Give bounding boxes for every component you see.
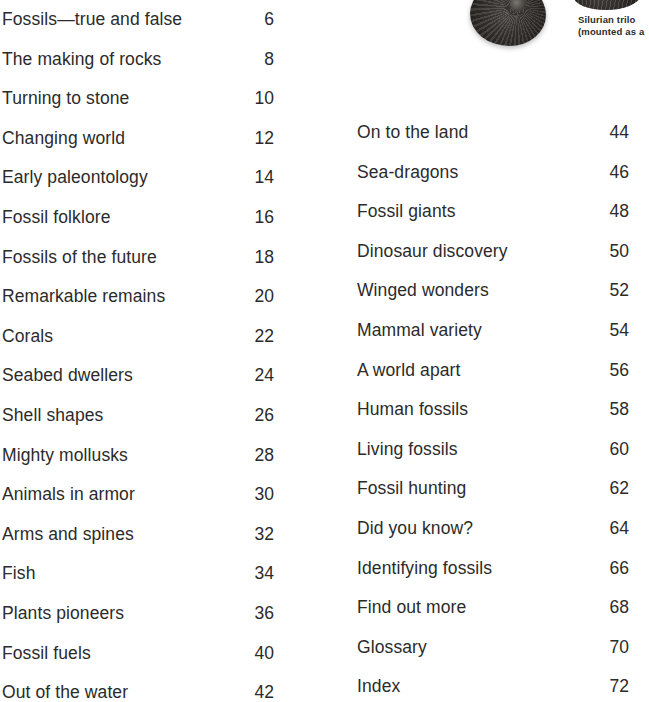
toc-entry-title: Did you know? [357,509,473,549]
toc-entry-title: Turning to stone [2,79,129,119]
toc-entry-page-number: 36 [243,594,274,634]
toc-entry-title: Fossil hunting [357,469,466,509]
toc-entry-title: Out of the water [2,673,128,702]
toc-entry[interactable]: Fossil hunting 62 [357,469,629,509]
toc-entry-title: Fossil fuels [2,634,91,674]
toc-entry-title: Winged wonders [357,271,489,311]
toc-entry-page-number: 58 [598,390,629,430]
toc-entry[interactable]: Index 72 [357,667,629,702]
toc-entry[interactable]: A world apart 56 [357,351,629,391]
toc-entry-title: Fossils of the future [2,238,157,278]
toc-entry-page-number: 14 [243,158,274,198]
toc-entry-page-number: 66 [598,549,629,589]
caption-line-1: Silurian trilo [578,14,649,26]
toc-entry[interactable]: Fossils—true and false 6 [2,0,274,40]
toc-entry[interactable]: Fossil fuels 40 [2,634,274,674]
toc-entry[interactable]: Did you know? 64 [357,509,629,549]
trilobite-fossil-photo [574,0,640,10]
toc-entry-title: Human fossils [357,390,468,430]
toc-entry-page-number: 50 [598,232,629,272]
toc-entry[interactable]: Identifying fossils 66 [357,549,629,589]
toc-entry-title: Fossil giants [357,192,456,232]
toc-entry-title: Dinosaur discovery [357,232,508,272]
toc-entry[interactable]: Mighty mollusks 28 [2,436,274,476]
toc-entry[interactable]: The making of rocks 8 [2,40,274,80]
toc-entry-page-number: 28 [243,436,274,476]
toc-entry[interactable]: Arms and spines 32 [2,515,274,555]
toc-entry-page-number: 34 [243,554,274,594]
toc-entry-page-number: 12 [243,119,274,159]
toc-entry-title: Identifying fossils [357,549,492,589]
toc-entry-page-number: 68 [598,588,629,628]
toc-entry-title: Arms and spines [2,515,134,555]
toc-entry[interactable]: Dinosaur discovery 50 [357,232,629,272]
toc-entry[interactable]: Seabed dwellers 24 [2,356,274,396]
toc-entry-page-number: 8 [252,40,274,80]
toc-entry[interactable]: Animals in armor 30 [2,475,274,515]
toc-entry[interactable]: Glossary 70 [357,628,629,668]
toc-entry[interactable]: Fossil giants 48 [357,192,629,232]
toc-entry[interactable]: Corals 22 [2,317,274,357]
toc-entry[interactable]: Out of the water 42 [2,673,274,702]
toc-entry-page-number: 26 [243,396,274,436]
toc-entry-title: Glossary [357,628,427,668]
toc-entry[interactable]: Turning to stone 10 [2,79,274,119]
toc-entry-title: Plants pioneers [2,594,124,634]
toc-entry[interactable]: Living fossils 60 [357,430,629,470]
toc-entry-page-number: 22 [243,317,274,357]
toc-entry-page-number: 46 [598,153,629,193]
ammonite-fossil-photo [470,0,546,46]
toc-entry[interactable]: Early paleontology 14 [2,158,274,198]
toc-entry-page-number: 42 [243,673,274,702]
toc-entry-title: Seabed dwellers [2,356,133,396]
toc-entry-title: Index [357,667,400,702]
toc-entry[interactable]: Shell shapes 26 [2,396,274,436]
toc-entry-title: Living fossils [357,430,458,470]
toc-entry-title: Sea-dragons [357,153,458,193]
toc-entry[interactable]: Fish 34 [2,554,274,594]
toc-entry-page-number: 18 [243,238,274,278]
toc-entry-title: Fossil folklore [2,198,110,238]
toc-entry[interactable]: Changing world 12 [2,119,274,159]
toc-entry-title: Remarkable remains [2,277,165,317]
toc-entry-page-number: 64 [598,509,629,549]
toc-entry[interactable]: Mammal variety 54 [357,311,629,351]
toc-entry-page-number: 52 [598,271,629,311]
toc-entry-title: Changing world [2,119,125,159]
toc-entry-page-number: 20 [243,277,274,317]
toc-entry[interactable]: Remarkable remains 20 [2,277,274,317]
toc-entry[interactable]: Fossils of the future 18 [2,238,274,278]
toc-entry-title: Fish [2,554,35,594]
toc-entry-page-number: 54 [598,311,629,351]
toc-entry-page-number: 56 [598,351,629,391]
toc-entry-title: The making of rocks [2,40,161,80]
toc-entry-page-number: 40 [243,634,274,674]
toc-entry-title: Find out more [357,588,466,628]
toc-entry-page-number: 62 [598,469,629,509]
fossil-photo-caption: Silurian trilo (mounted as a [578,14,649,39]
toc-entry-page-number: 44 [598,113,629,153]
toc-entry-page-number: 30 [243,475,274,515]
toc-entry-page-number: 6 [252,0,274,40]
toc-entry-title: Shell shapes [2,396,103,436]
toc-entry-title: A world apart [357,351,460,391]
toc-entry-page-number: 60 [598,430,629,470]
toc-entry-page-number: 32 [243,515,274,555]
toc-entry[interactable]: Sea-dragons 46 [357,153,629,193]
toc-entry[interactable]: On to the land 44 [357,113,629,153]
toc-entry[interactable]: Plants pioneers 36 [2,594,274,634]
toc-entry-title: Fossils—true and false [2,0,182,40]
toc-entry[interactable]: Find out more 68 [357,588,629,628]
caption-line-2: (mounted as a [578,26,649,38]
toc-entry-page-number: 10 [243,79,274,119]
toc-entry[interactable]: Fossil folklore 16 [2,198,274,238]
toc-entry-title: Early paleontology [2,158,148,198]
toc-entry[interactable]: Human fossils 58 [357,390,629,430]
toc-entry-title: Mammal variety [357,311,482,351]
toc-entry-page-number: 70 [598,628,629,668]
toc-entry-page-number: 16 [243,198,274,238]
toc-entry-title: On to the land [357,113,468,153]
toc-column-left: Fossils—true and false 6 The making of r… [2,0,274,702]
toc-entry[interactable]: Winged wonders 52 [357,271,629,311]
toc-entry-page-number: 24 [243,356,274,396]
